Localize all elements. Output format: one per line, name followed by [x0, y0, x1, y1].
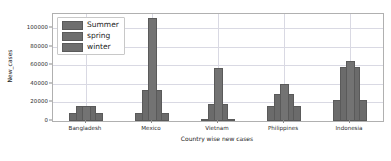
x-axis-tick-mark [151, 120, 152, 123]
y-axis-tick-60000: 60000 [30, 61, 48, 67]
bar-group-vietnam [185, 14, 251, 121]
y-axis-tick-mark [49, 101, 52, 102]
legend-item-summer: Summer [62, 21, 119, 29]
y-axis-tick-80000: 80000 [30, 43, 48, 49]
y-axis-tick-mark [49, 82, 52, 83]
x-axis-tick-vietnam: Vietnam [205, 125, 228, 131]
bar-group-mexico [119, 14, 185, 121]
x-axis-tick-philippines: Philippines [268, 125, 298, 131]
legend-item-spring: spring [62, 32, 119, 40]
bar-chart-figure: New_cases 020000400006000080000100000 Co… [0, 0, 391, 161]
x-axis-tick-mark [217, 120, 218, 123]
bar-spring-bangladesh [82, 106, 91, 121]
legend-swatch-winter [62, 43, 83, 52]
y-axis-tick-40000: 40000 [30, 80, 48, 86]
bar-group-indonesia [317, 14, 383, 121]
y-axis-tick-100000: 100000 [27, 24, 48, 30]
x-axis-tick-bangladesh: Bangladesh [69, 125, 102, 131]
y-axis-tick-mark [49, 64, 52, 65]
bar-spring-mexico [148, 18, 157, 121]
y-axis-tick-0: 0 [44, 117, 48, 123]
bar-spring-philippines [280, 84, 289, 121]
x-axis-tick-mark [85, 120, 86, 123]
x-axis-tick-mark [283, 120, 284, 123]
legend-item-winter: winter [62, 43, 119, 51]
x-axis-label: Country wise new cases [52, 135, 382, 142]
x-axis-tick-mark [349, 120, 350, 123]
legend-label-spring: spring [87, 32, 110, 40]
chart-legend: Summer spring winter [57, 17, 125, 55]
legend-swatch-summer [62, 21, 83, 30]
bar-spring-vietnam [214, 68, 223, 121]
y-axis-tick-mark [49, 120, 52, 121]
y-axis-tick-20000: 20000 [30, 98, 48, 104]
legend-label-summer: Summer [87, 21, 119, 29]
bar-spring-indonesia [346, 61, 355, 121]
bar-group-philippines [251, 14, 317, 121]
y-axis-tick-labels: 020000400006000080000100000 [0, 13, 48, 120]
y-axis-tick-mark [49, 45, 52, 46]
x-axis-tick-indonesia: Indonesia [335, 125, 362, 131]
x-axis-tick-mexico: Mexico [141, 125, 161, 131]
legend-swatch-spring [62, 32, 83, 41]
legend-label-winter: winter [87, 43, 111, 51]
y-axis-tick-mark [49, 26, 52, 27]
